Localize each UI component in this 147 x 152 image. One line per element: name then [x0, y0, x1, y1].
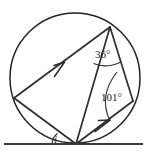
chord-top-to-right — [110, 27, 133, 101]
main-circle — [10, 13, 140, 143]
chord-bottom-to-right — [76, 101, 133, 144]
arrow-icon-bottom-to-right — [95, 120, 110, 132]
chord-bottom-to-top — [76, 27, 110, 144]
geometry-diagram-container: 36° 101° i — [0, 0, 147, 152]
angle-label-i: i — [54, 133, 57, 145]
arrow-icon-left-to-top — [54, 62, 65, 77]
angle-label-101: 101° — [101, 91, 122, 103]
angle-arc-36 — [94, 62, 122, 66]
chord-left-to-bottom — [14, 98, 76, 144]
angle-label-36: 36° — [95, 48, 110, 60]
circle-geometry-figure: 36° 101° i — [0, 0, 147, 152]
